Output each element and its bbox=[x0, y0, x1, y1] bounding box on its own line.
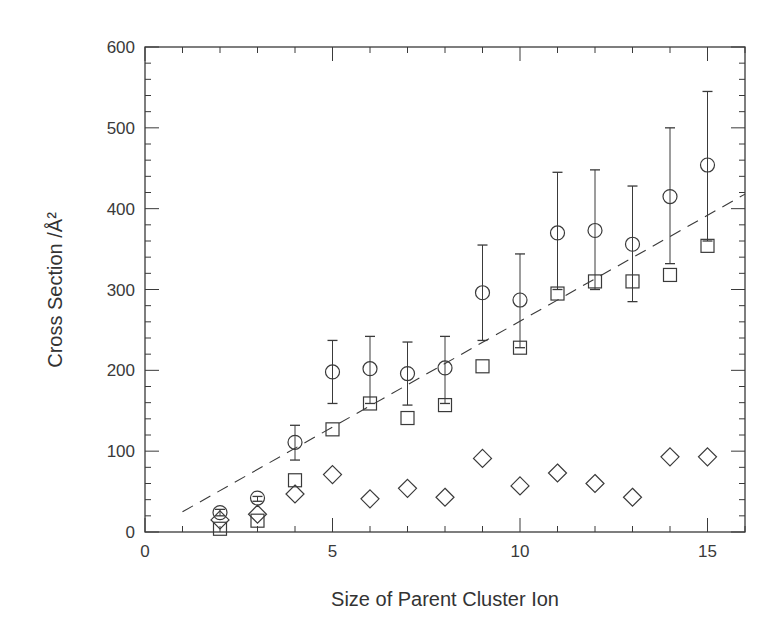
y-tick-label: 400 bbox=[107, 200, 135, 219]
diamond-marker bbox=[549, 464, 567, 482]
y-tick-label: 0 bbox=[126, 523, 135, 542]
fit-dashed-line bbox=[183, 194, 746, 512]
circle-marker bbox=[551, 226, 565, 240]
circle-marker bbox=[363, 362, 377, 376]
circle-marker bbox=[251, 491, 265, 505]
circle-marker bbox=[513, 293, 527, 307]
error-bars bbox=[215, 91, 713, 515]
y-tick-label: 300 bbox=[107, 281, 135, 300]
x-tick-label: 10 bbox=[511, 542, 530, 561]
scatter-chart: 0100200300400500600051015 Size of Parent… bbox=[0, 0, 783, 641]
diamond-marker bbox=[324, 466, 342, 484]
diamond-marker bbox=[511, 477, 529, 495]
circle-marker bbox=[663, 190, 677, 204]
circle-marker bbox=[213, 506, 227, 520]
y-tick-label: 500 bbox=[107, 119, 135, 138]
square-marker bbox=[664, 268, 677, 281]
circle-marker bbox=[438, 361, 452, 375]
y-tick-label: 100 bbox=[107, 442, 135, 461]
x-axis-title: Size of Parent Cluster Ion bbox=[331, 588, 559, 610]
circle-marker bbox=[626, 237, 640, 251]
diamond-marker bbox=[661, 448, 679, 466]
square-marker bbox=[251, 514, 264, 527]
diamond-marker bbox=[586, 475, 604, 493]
diamond-marker bbox=[286, 485, 304, 503]
x-tick-label: 5 bbox=[328, 542, 337, 561]
circle-marker bbox=[288, 435, 302, 449]
y-tick-label: 600 bbox=[107, 38, 135, 57]
circle-marker bbox=[326, 365, 340, 379]
diamond-marker bbox=[361, 490, 379, 508]
square-marker bbox=[401, 412, 414, 425]
diamond-marker bbox=[699, 448, 717, 466]
x-tick-label: 15 bbox=[698, 542, 717, 561]
diamond-marker bbox=[624, 488, 642, 506]
diamond-marker bbox=[399, 479, 417, 497]
circle-marker bbox=[701, 158, 715, 172]
y-tick-label: 200 bbox=[107, 361, 135, 380]
square-marker bbox=[476, 360, 489, 373]
data-markers bbox=[211, 158, 717, 535]
fit-line bbox=[183, 194, 746, 512]
circle-marker bbox=[588, 223, 602, 237]
circle-marker bbox=[476, 286, 490, 300]
axis-ticks: 0100200300400500600051015 bbox=[107, 38, 745, 561]
x-tick-label: 0 bbox=[140, 542, 149, 561]
plot-border bbox=[145, 47, 745, 532]
diamond-marker bbox=[474, 449, 492, 467]
circle-marker bbox=[401, 367, 415, 381]
y-axis-title: Cross Section /Å² bbox=[44, 212, 66, 368]
plot-frame bbox=[145, 47, 745, 532]
diamond-marker bbox=[436, 488, 454, 506]
